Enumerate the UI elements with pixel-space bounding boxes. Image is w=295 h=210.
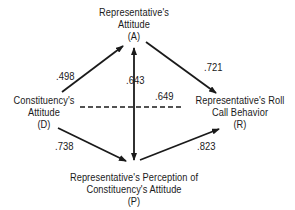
node-a-line-1: Representative's [81,6,187,18]
coefficient-p-r: .823 [197,140,215,152]
node-p-label: (P) [55,195,213,207]
node-r-line-2: Call Behavior [178,106,295,118]
node-a-line-2: Attitude [81,18,187,30]
coefficient-d-a: .498 [56,70,74,82]
node-r-line-1: Representative's Roll [178,94,295,106]
node-d-label: (D) [0,118,97,130]
node-representatives-attitude: Representative's Attitude (A) [81,6,187,42]
node-a-label: (A) [81,30,187,42]
node-perception-of-constituency: Representative's Perception of Constitue… [55,171,213,207]
node-p-line-2: Constituency's Attitude [55,183,213,195]
coefficient-a-r: .721 [204,61,222,73]
node-roll-call-behavior: Representative's Roll Call Behavior (R) [178,94,295,130]
node-r-label: (R) [178,118,295,130]
coefficient-d-r: .649 [155,90,173,102]
coefficient-p-a: .643 [126,74,144,86]
node-d-line-2: Attitude [0,106,97,118]
node-d-line-1: Constituency's [0,94,97,106]
coefficient-d-p: .738 [55,140,73,152]
path-diagram: Representative's Attitude (A) Constituen… [0,0,295,210]
node-constituencys-attitude: Constituency's Attitude (D) [0,94,97,130]
edge-d-to-a-arrow [62,46,123,92]
node-p-line-1: Representative's Perception of [55,171,213,183]
